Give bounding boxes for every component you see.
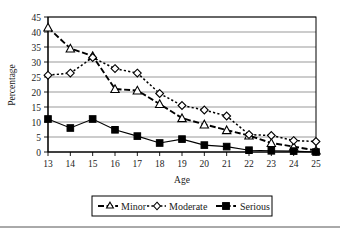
series-moderate bbox=[44, 54, 320, 146]
data-point-open-diamond-icon bbox=[66, 69, 74, 77]
x-tick-label: 14 bbox=[66, 159, 76, 169]
line-chart-canvas: 0 5 10 15 20 25 30 35 40 45 Percentage 1… bbox=[0, 0, 340, 231]
x-tick-label: 20 bbox=[200, 159, 210, 169]
legend-item-serious[interactable]: Serious bbox=[216, 201, 270, 212]
x-tick-label: 21 bbox=[222, 159, 232, 169]
x-tick-marks bbox=[48, 152, 316, 156]
data-point-filled-square-icon bbox=[112, 127, 119, 134]
legend-label-moderate: Moderate bbox=[169, 201, 208, 212]
x-tick-label: 19 bbox=[177, 159, 187, 169]
x-tick-label: 17 bbox=[133, 159, 143, 169]
data-point-open-diamond-icon bbox=[111, 65, 119, 73]
plot-area-frame bbox=[48, 17, 316, 152]
data-point-filled-square-icon bbox=[89, 116, 96, 123]
series-line-minor bbox=[48, 28, 316, 151]
chart-legend: Minor Moderate Serious bbox=[92, 196, 272, 216]
data-point-filled-square-icon bbox=[67, 125, 74, 132]
data-point-open-diamond-icon bbox=[44, 71, 52, 79]
x-tick-label: 24 bbox=[289, 159, 299, 169]
data-point-filled-square-icon bbox=[223, 143, 230, 150]
data-point-open-diamond-icon bbox=[267, 132, 275, 140]
series-line-moderate bbox=[48, 58, 316, 142]
y-tick-label: 5 bbox=[36, 133, 41, 143]
y-tick-label: 25 bbox=[32, 73, 42, 83]
data-point-filled-square-icon bbox=[313, 149, 320, 156]
x-tick-label: 16 bbox=[110, 159, 120, 169]
x-tick-label: 13 bbox=[43, 159, 53, 169]
y-tick-label: 40 bbox=[32, 28, 42, 38]
data-point-open-diamond-icon bbox=[178, 102, 186, 110]
data-point-open-triangle-icon bbox=[44, 23, 52, 31]
data-point-filled-square-icon bbox=[290, 148, 297, 155]
data-point-filled-square-icon bbox=[45, 116, 52, 123]
x-tick-label: 15 bbox=[88, 159, 98, 169]
y-tick-labels: 0 5 10 15 20 25 30 35 40 45 bbox=[32, 13, 42, 158]
y-tick-label: 20 bbox=[32, 88, 42, 98]
data-series-layer bbox=[44, 23, 320, 155]
data-point-filled-square-icon bbox=[246, 147, 253, 154]
y-tick-label: 30 bbox=[32, 58, 42, 68]
x-axis-title: Age bbox=[174, 175, 190, 185]
data-point-filled-square-icon bbox=[201, 142, 208, 149]
data-point-filled-square-icon bbox=[134, 133, 141, 140]
x-tick-label: 23 bbox=[267, 159, 277, 169]
legend-marker-filled-square-icon bbox=[223, 203, 230, 210]
y-tick-label: 35 bbox=[32, 43, 42, 53]
legend-label-minor: Minor bbox=[121, 201, 147, 212]
x-tick-label: 18 bbox=[155, 159, 165, 169]
y-tick-label: 0 bbox=[36, 148, 41, 158]
data-point-filled-square-icon bbox=[156, 140, 163, 147]
x-tick-label: 25 bbox=[311, 159, 321, 169]
chart-figure: 0 5 10 15 20 25 30 35 40 45 Percentage 1… bbox=[0, 0, 340, 231]
data-point-open-triangle-icon bbox=[155, 100, 163, 108]
series-minor bbox=[44, 23, 320, 154]
data-point-filled-square-icon bbox=[179, 136, 186, 143]
y-tick-label: 15 bbox=[32, 103, 42, 113]
y-tick-label: 10 bbox=[32, 118, 42, 128]
y-tick-marks bbox=[44, 17, 48, 152]
data-point-filled-square-icon bbox=[268, 148, 275, 155]
y-axis-title: Percentage bbox=[7, 64, 17, 106]
data-point-open-diamond-icon bbox=[290, 137, 298, 145]
y-tick-label: 45 bbox=[32, 13, 42, 23]
data-point-open-diamond-icon bbox=[312, 138, 320, 146]
data-point-open-triangle-icon bbox=[178, 114, 186, 122]
x-tick-label: 22 bbox=[244, 159, 254, 169]
x-tick-labels: 13141516171819202122232425 bbox=[43, 159, 321, 169]
legend-label-serious: Serious bbox=[240, 201, 270, 212]
